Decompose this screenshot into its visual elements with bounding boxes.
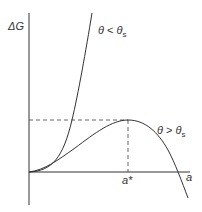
x-axis-label: a [186,171,192,183]
low-theta-label: θ < θs [98,24,126,39]
critical-size-label: a* [122,174,133,186]
nucleation-free-energy-diagram: ΔG a a* θ < θs θ > θs [0,0,202,212]
relation: < [104,24,117,36]
subscript-s: s [122,30,126,39]
low-theta-curve [29,13,92,172]
subscript-s: s [181,130,185,139]
relation: > [163,124,176,136]
y-axis-label: ΔG [7,20,24,32]
high-theta-label: θ > θs [157,124,185,139]
